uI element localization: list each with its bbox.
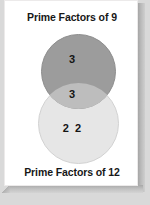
card-shadow-bottom (8, 185, 143, 193)
top-only-region-label: 3 (5, 54, 138, 65)
venn-diagram-figure: Prime Factors of 9 3 3 2 2 Prime Factors… (0, 0, 150, 205)
intersection-region-label: 3 (5, 89, 138, 100)
card-shadow-right (137, 3, 145, 192)
diagram-card: Prime Factors of 9 3 3 2 2 Prime Factors… (4, 0, 138, 186)
bottom-only-region-label: 2 2 (5, 123, 138, 134)
bottom-set-title: Prime Factors of 12 (5, 166, 138, 178)
